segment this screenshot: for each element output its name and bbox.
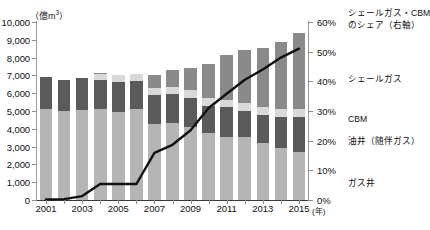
y-axis-left-tick: 8,000 <box>7 52 30 63</box>
y-axis-right-tick: 50% <box>317 46 336 57</box>
x-axis-tick-label: 2003 <box>72 203 93 214</box>
bar-segment <box>40 109 53 200</box>
x-axis-tickmark <box>64 200 65 204</box>
bar-segment <box>94 74 107 80</box>
y-axis-right-tick: 20% <box>317 135 336 146</box>
y-axis-left-tickmark <box>32 200 37 201</box>
legend-item-oil-well: 油井（随伴ガス） <box>348 136 420 147</box>
bar-segment <box>94 73 107 74</box>
plot-area <box>37 22 308 200</box>
y-axis-left-tickmark <box>32 147 37 148</box>
y-axis-left: 10,0009,0008,0007,0006,0005,0004,0003,00… <box>0 0 37 230</box>
bar-segment <box>238 50 251 103</box>
x-axis-unit-label: (年) <box>312 205 325 216</box>
y-axis-right-tick: 0% <box>317 195 331 206</box>
y-axis-right-tick: 10% <box>317 165 336 176</box>
y-axis-left-tick: 5,000 <box>7 106 30 117</box>
y-axis-left-tickmark <box>32 164 37 165</box>
x-axis-tickmark <box>209 200 210 204</box>
bar-segment <box>94 109 107 200</box>
bar-segment <box>184 127 197 201</box>
bar-segment <box>166 70 179 87</box>
bar-stack <box>166 22 179 200</box>
y-axis-right-tickmark <box>308 141 313 142</box>
y-axis-left-tick: 1,000 <box>7 177 30 188</box>
bar-segment <box>184 68 197 91</box>
y-axis-left-tickmark <box>32 58 37 59</box>
y-axis-left-tick: 10,000 <box>2 17 30 28</box>
y-axis-right-tickmark <box>308 81 313 82</box>
y-axis-left-tickmark <box>32 182 37 183</box>
x-axis-tickmark <box>299 200 300 204</box>
x-axis-tickmark <box>245 200 246 204</box>
bar-segment <box>202 64 215 98</box>
bar-stack <box>76 22 89 200</box>
x-axis-tick-label: 2011 <box>216 203 236 214</box>
y-axis-left-tickmark <box>32 129 37 130</box>
y-axis-left-tick: 2,000 <box>7 159 30 170</box>
bar-segment <box>76 78 89 111</box>
bar-segment <box>166 94 179 123</box>
y-axis-left-tickmark <box>32 40 37 41</box>
bar-segment <box>220 137 233 200</box>
y-axis-right-tickmark <box>308 111 313 112</box>
y-axis-left-tickmark <box>32 93 37 94</box>
bar-segment <box>76 110 89 200</box>
y-axis-left-tick: 7,000 <box>7 70 30 81</box>
x-axis-tick-label: 2013 <box>252 203 273 214</box>
bar-segment <box>275 42 288 109</box>
bar-stack <box>202 22 215 200</box>
bar-segment <box>148 88 161 95</box>
x-axis-tickmark <box>100 200 101 204</box>
bar-segment <box>220 100 233 107</box>
y-axis-left-tick: 0 <box>25 195 30 206</box>
x-axis-tick-label: 2001 <box>35 203 56 214</box>
legend-item-shale-gas: シェールガス <box>348 74 402 85</box>
y-axis-right-tick: 40% <box>317 76 336 87</box>
y-axis-left-tick: 9,000 <box>7 34 30 45</box>
bar-segment <box>257 115 270 143</box>
bar-segment <box>238 103 251 111</box>
bar-segment <box>130 81 143 109</box>
bar-segment <box>238 111 251 137</box>
bar-segment <box>130 109 143 200</box>
bar-segment <box>112 112 125 200</box>
x-axis-tickmark <box>173 200 174 204</box>
bar-segment <box>40 77 53 109</box>
bar-segment <box>275 148 288 200</box>
bar-stack <box>94 22 107 200</box>
bar-segment <box>257 107 270 114</box>
bar-stack <box>40 22 53 200</box>
bar-segment <box>275 117 288 148</box>
y-axis-left-tickmark <box>32 75 37 76</box>
bar-stack <box>220 22 233 200</box>
bar-segment <box>166 87 179 94</box>
bar-segment <box>112 82 125 112</box>
bar-stack <box>184 22 197 200</box>
bar-segment <box>257 143 270 200</box>
bar-segment <box>293 117 306 152</box>
y-axis-left-tickmark <box>32 111 37 112</box>
bar-segment <box>58 80 71 111</box>
x-axis-labels: 20012003200520072009201120132015 <box>37 203 308 223</box>
bar-stack <box>257 22 270 200</box>
x-axis-tickmark <box>263 200 264 204</box>
legend-item-gas-well: ガス井 <box>348 178 375 189</box>
bar-segment <box>94 80 107 109</box>
bar-segment <box>202 133 215 200</box>
bar-stack <box>58 22 71 200</box>
bar-segment <box>148 95 161 124</box>
x-axis-tick-label: 2009 <box>180 203 201 214</box>
y-axis-left-tickmark <box>32 22 37 23</box>
bar-segment <box>202 98 215 106</box>
bar-segment <box>275 109 288 117</box>
y-axis-left-tick: 6,000 <box>7 88 30 99</box>
bar-segment <box>238 137 251 200</box>
bar-stack <box>293 22 306 200</box>
y-axis-right-tickmark <box>308 200 313 201</box>
bar-stack <box>148 22 161 200</box>
bar-stack <box>112 22 125 200</box>
x-axis-tickmark <box>136 200 137 204</box>
y-axis-left-tick: 4,000 <box>7 123 30 134</box>
bar-segment <box>184 90 197 97</box>
